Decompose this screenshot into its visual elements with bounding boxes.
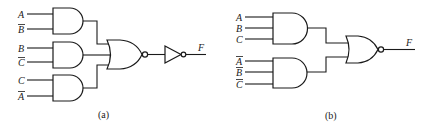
logic-diagrams: A B B C C A F (a) (0, 0, 428, 128)
input-label-a1-A: A (17, 9, 25, 20)
and-gate-icon (273, 13, 308, 44)
wire (307, 57, 350, 72)
wire (83, 21, 110, 44)
inversion-bubble-icon (181, 52, 186, 57)
and-gate-icon (53, 75, 83, 101)
input-label-a3-C: C (18, 75, 25, 86)
not-gate-icon (165, 46, 181, 63)
nor-gate-icon (346, 36, 378, 63)
input-label-b1-C: C (236, 34, 243, 45)
wire (83, 65, 110, 88)
input-label-b1-B: B (236, 23, 242, 34)
caption-a: (a) (98, 109, 109, 121)
input-label-b2-C-bar: C (236, 79, 243, 90)
wire (307, 28, 350, 43)
diagram-b: A B C A B C F (b) (235, 12, 415, 122)
inversion-bubble-icon (378, 47, 383, 52)
input-label-a2-C-bar: C (18, 57, 25, 68)
output-label-F: F (197, 42, 205, 53)
caption-b: (b) (325, 110, 337, 122)
input-label-b2-A-bar: A (235, 56, 243, 67)
and-gate-icon (53, 42, 83, 68)
inversion-bubble-icon (142, 52, 147, 57)
input-label-a2-B: B (18, 43, 24, 54)
input-label-b1-A: A (235, 12, 243, 23)
input-label-a3-A-bar: A (17, 91, 25, 102)
input-label-b2-B-bar: B (236, 67, 242, 78)
and-gate-icon (273, 58, 307, 88)
diagram-a: A B B C C A F (a) (17, 8, 206, 121)
and-gate-icon (53, 8, 83, 34)
output-label-F: F (405, 37, 413, 48)
nor-gate-icon (107, 40, 142, 69)
input-label-a1-B-bar: B (18, 24, 24, 35)
